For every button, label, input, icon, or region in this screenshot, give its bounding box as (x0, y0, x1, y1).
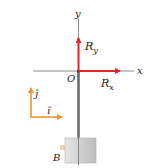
point-b-marker (61, 146, 64, 149)
hanging-weight (65, 138, 96, 163)
x-axis-label: x (137, 65, 143, 76)
unit-vector-j-label: ĵ (33, 88, 39, 99)
y-axis-label: y (74, 8, 81, 19)
unit-vector-i-label: î (47, 105, 51, 116)
free-body-diagram: y x O Ry Rx ĵ î B (0, 0, 151, 168)
origin-label: O (67, 73, 75, 84)
point-b-label: B (52, 152, 60, 163)
force-rx-label: Rx (100, 77, 114, 92)
force-ry-label: Ry (84, 40, 98, 55)
